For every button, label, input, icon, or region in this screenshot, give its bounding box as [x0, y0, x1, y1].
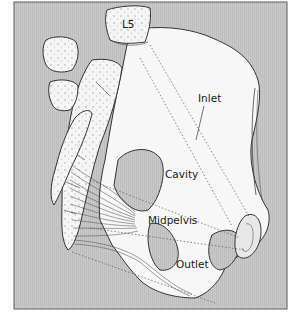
label-midpelvis: Midpelvis [148, 214, 197, 226]
vertebra-upper [43, 37, 78, 72]
label-l5: L5 [122, 18, 135, 30]
vertebra-middle [49, 80, 78, 111]
label-cavity: Cavity [165, 168, 198, 180]
pelvis-diagram: L5 Inlet Cavity Midpelvis Outlet [0, 0, 296, 323]
label-inlet: Inlet [198, 92, 221, 104]
label-outlet: Outlet [176, 258, 209, 270]
